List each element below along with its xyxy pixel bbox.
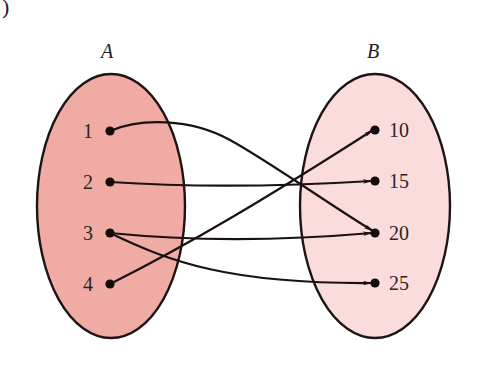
- set-a-element-3: 3: [83, 222, 93, 244]
- set-b-element-25: 25: [389, 272, 409, 294]
- set-b-label: B: [367, 40, 379, 62]
- set-a-element-1: 1: [83, 120, 93, 142]
- arrow-diagram: ) A B 1 2 3 4 10 15 20 25: [0, 0, 477, 369]
- set-b-element-10: 10: [389, 119, 409, 141]
- set-a-element-2: 2: [83, 171, 93, 193]
- set-b-dot-25: [370, 278, 379, 287]
- set-a-element-4: 4: [83, 273, 93, 295]
- set-b-dot-15: [370, 176, 379, 185]
- set-b-dot-10: [370, 125, 379, 134]
- set-b-dot-20: [370, 228, 379, 237]
- set-b-element-20: 20: [389, 222, 409, 244]
- set-a-dot-4: [105, 279, 114, 288]
- set-a-dot-1: [105, 126, 114, 135]
- set-a-dot-3: [105, 228, 114, 237]
- set-a-ellipse: [37, 74, 185, 338]
- set-b-ellipse: [300, 74, 450, 338]
- corner-parenthesis-glyph: ): [2, 0, 9, 19]
- set-a-dot-2: [105, 177, 114, 186]
- set-a-label: A: [99, 40, 114, 62]
- set-b-element-15: 15: [389, 170, 409, 192]
